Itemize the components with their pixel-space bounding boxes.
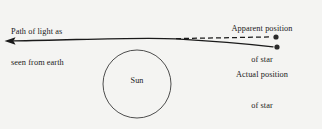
label-path-of-light-line1: Path of light as xyxy=(11,27,64,37)
gravitational-lensing-diagram: Path of light as seen from earth Apparen… xyxy=(0,0,322,129)
label-sun: Sun xyxy=(117,76,157,86)
label-path-of-light: Path of light as seen from earth xyxy=(11,7,64,89)
label-actual-position-line2: of star xyxy=(206,101,318,111)
label-path-of-light-line2: seen from earth xyxy=(11,58,64,68)
label-apparent-position-line1: Apparent position xyxy=(206,24,318,34)
label-actual-position-line1: Actual position xyxy=(206,70,318,80)
label-actual-position: Actual position of star xyxy=(206,50,318,129)
